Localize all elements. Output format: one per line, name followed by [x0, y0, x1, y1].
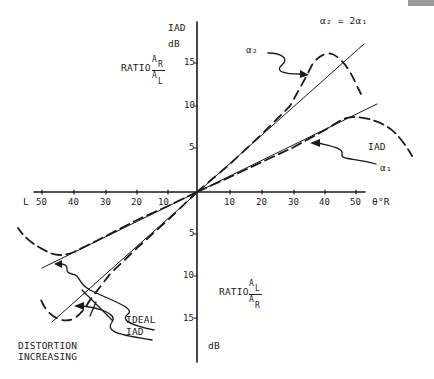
alpha1-iad-curve — [197, 117, 412, 192]
x-tick-left-20: 20 — [131, 197, 142, 207]
y-tick-up-10: 10 — [184, 100, 195, 110]
corner-mark — [408, 0, 434, 6]
distortion-label-line2: INCREASING — [18, 351, 77, 362]
y-tick-down-10: 10 — [183, 270, 194, 280]
equation-label: α₂ = 2α₁ — [320, 15, 367, 26]
iad-label: IAD — [368, 141, 386, 152]
y-axis-unit: dB — [168, 38, 180, 49]
y-axis-bottom-unit: dB — [208, 340, 220, 351]
ratio-upper-den: A — [152, 72, 157, 80]
ideal-iad-arrowhead-lower — [74, 302, 84, 310]
ratio-upper-num-sub: R — [158, 61, 163, 69]
ratio-lower-num: A — [249, 280, 254, 288]
alpha2-label: α₂ — [246, 44, 258, 55]
alpha2-iad-curve-lower — [40, 192, 197, 320]
ratio-upper-word: RATIO — [121, 62, 151, 73]
x-tick-left-10: 10 — [158, 197, 169, 207]
distortion-label-line1: DISTORTION — [18, 340, 77, 351]
ratio-lower-word: RATIO — [219, 286, 249, 297]
alpha2-pointer — [268, 53, 300, 74]
x-tick-left-50: 50 — [36, 197, 47, 207]
y-axis-title: IAD — [168, 22, 186, 33]
x-tick-right-30: 30 — [288, 197, 299, 207]
ratio-upper-fraction: A R A L — [152, 56, 168, 86]
ratio-upper-den-sub: L — [158, 78, 163, 86]
ratio-lower-den: A — [249, 296, 254, 304]
x-tick-right-40: 40 — [319, 197, 330, 207]
x-tick-left-40: 40 — [68, 197, 79, 207]
x-axis-right-label: θ°R — [372, 196, 390, 207]
x-axis-left-label: L — [23, 196, 29, 207]
alpha1-label: α₁ — [380, 162, 392, 173]
ratio-lower-fraction: A L A R — [249, 280, 265, 310]
y-tick-up-15: 15 — [184, 57, 195, 67]
ratio-lower-den-sub: R — [255, 302, 260, 310]
x-tick-right-50: 50 — [350, 197, 361, 207]
alpha1-arrowhead — [310, 139, 320, 147]
x-tick-right-20: 20 — [256, 197, 267, 207]
ideal-iad-label-line1: IDEAL — [126, 314, 156, 325]
ratio-upper-num: A — [152, 56, 157, 64]
y-tick-up-5: 5 — [189, 142, 194, 152]
alpha2-arrowhead — [300, 70, 309, 78]
ideal-iad-label-line2: IAD — [126, 326, 144, 337]
x-tick-left-30: 30 — [100, 197, 111, 207]
y-tick-down-5: 5 — [189, 228, 194, 238]
iad-diagram — [0, 0, 434, 379]
x-tick-right-10: 10 — [224, 197, 235, 207]
ratio-lower-num-sub: L — [255, 285, 260, 293]
y-tick-down-15: 15 — [183, 313, 194, 323]
